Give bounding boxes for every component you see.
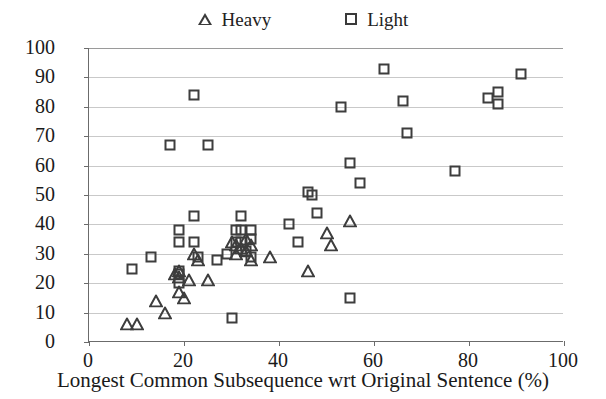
data-point-heavy <box>201 274 215 287</box>
gridline-y-20 <box>89 283 563 284</box>
x-tick-label-60: 60 <box>343 350 403 370</box>
y-tick-label-50: 50 <box>11 184 55 204</box>
data-point-heavy <box>130 318 144 331</box>
data-point-light <box>145 251 156 262</box>
x-tick-label-0: 0 <box>58 350 118 370</box>
x-tick-label-80: 80 <box>438 350 498 370</box>
y-tick-label-90: 90 <box>11 66 55 86</box>
y-tick-50 <box>84 195 89 196</box>
data-point-light <box>193 251 204 262</box>
y-tick-70 <box>84 136 89 137</box>
y-tick-30 <box>84 254 89 255</box>
scatter-plot-figure: Heavy Light LCS wrt Revised Sentence (%)… <box>0 0 606 399</box>
data-point-light <box>245 234 256 245</box>
gridline-y-100 <box>89 48 563 49</box>
data-point-light <box>174 225 185 236</box>
x-tick-20 <box>184 341 185 346</box>
data-point-light <box>202 140 213 151</box>
data-point-light <box>335 101 346 112</box>
x-tick-40 <box>279 341 280 346</box>
y-tick-label-20: 20 <box>11 272 55 292</box>
x-tick-label-100: 100 <box>533 350 593 370</box>
data-point-heavy <box>158 306 172 319</box>
x-tick-label-40: 40 <box>248 350 308 370</box>
legend-label-heavy: Heavy <box>222 10 272 29</box>
y-tick-100 <box>84 48 89 49</box>
y-tick-60 <box>84 166 89 167</box>
legend-entry-heavy: Heavy <box>198 10 272 29</box>
data-point-light <box>188 90 199 101</box>
data-point-light <box>221 248 232 259</box>
gridline-y-60 <box>89 166 563 167</box>
y-tick-label-100: 100 <box>11 37 55 57</box>
y-tick-label-30: 30 <box>11 243 55 263</box>
data-point-heavy <box>263 250 277 263</box>
x-tick-100 <box>564 341 565 346</box>
data-point-heavy <box>177 291 191 304</box>
y-tick-label-40: 40 <box>11 213 55 233</box>
y-tick-label-60: 60 <box>11 155 55 175</box>
y-tick-10 <box>84 313 89 314</box>
gridline-y-40 <box>89 224 563 225</box>
data-point-light <box>492 98 503 109</box>
y-tick-label-70: 70 <box>11 125 55 145</box>
plot-area <box>88 48 563 342</box>
y-tick-90 <box>84 77 89 78</box>
y-tick-label-10: 10 <box>11 302 55 322</box>
data-point-light <box>236 210 247 221</box>
data-point-light <box>245 251 256 262</box>
data-point-light <box>226 313 237 324</box>
data-point-light <box>449 166 460 177</box>
x-tick-0 <box>89 341 90 346</box>
square-marker-icon <box>345 13 357 25</box>
data-point-light <box>164 140 175 151</box>
x-axis-title: Longest Common Subsequence wrt Original … <box>0 369 606 391</box>
data-point-heavy <box>324 238 338 251</box>
legend-entry-light: Light <box>345 10 408 29</box>
data-point-light <box>174 237 185 248</box>
data-point-light <box>516 69 527 80</box>
data-point-light <box>397 95 408 106</box>
data-point-light <box>354 178 365 189</box>
data-point-light <box>402 128 413 139</box>
data-point-light <box>345 157 356 168</box>
data-point-light <box>293 237 304 248</box>
data-point-light <box>126 263 137 274</box>
y-tick-label-0: 0 <box>11 331 55 351</box>
gridline-y-30 <box>89 254 563 255</box>
data-point-light <box>188 237 199 248</box>
data-point-light <box>345 292 356 303</box>
y-tick-20 <box>84 283 89 284</box>
data-point-light <box>312 207 323 218</box>
data-point-light <box>174 278 185 289</box>
gridline-y-70 <box>89 136 563 137</box>
data-point-light <box>283 219 294 230</box>
x-tick-80 <box>469 341 470 346</box>
y-tick-80 <box>84 107 89 108</box>
y-tick-40 <box>84 224 89 225</box>
data-point-light <box>307 190 318 201</box>
x-tick-60 <box>374 341 375 346</box>
y-tick-label-80: 80 <box>11 96 55 116</box>
x-tick-label-20: 20 <box>153 350 213 370</box>
gridline-y-90 <box>89 77 563 78</box>
triangle-marker-icon <box>198 13 212 25</box>
data-point-heavy <box>343 215 357 228</box>
data-point-light <box>188 210 199 221</box>
data-point-heavy <box>301 265 315 278</box>
data-point-light <box>492 87 503 98</box>
data-point-light <box>378 63 389 74</box>
legend-label-light: Light <box>367 10 408 29</box>
chart-legend: Heavy Light <box>0 4 606 34</box>
gridline-y-50 <box>89 195 563 196</box>
